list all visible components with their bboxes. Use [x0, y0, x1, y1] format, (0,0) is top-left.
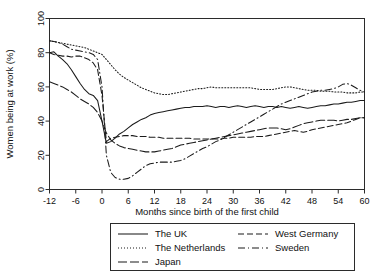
y-tick-label: 100	[36, 11, 46, 26]
x-tick-label: 24	[202, 196, 212, 206]
x-tick-label: 42	[281, 196, 291, 206]
legend-label-japan: Japan	[155, 256, 181, 267]
x-tick-label: 6	[126, 196, 131, 206]
legend-label-the-netherlands: The Netherlands	[155, 242, 225, 253]
figure-container: -12-606121824303642485460 020406080100 M…	[0, 0, 375, 277]
x-tick-label: 60	[359, 196, 369, 206]
x-tick-label: 54	[333, 196, 343, 206]
y-tick-label: 0	[36, 187, 46, 192]
x-tick-label: 36	[254, 196, 264, 206]
x-tick-label: -12	[43, 196, 56, 206]
x-axis-title: Months since birth of the first child	[135, 206, 279, 217]
legend-label-sweden: Sweden	[275, 242, 309, 253]
legend-label-the-uk: The UK	[155, 228, 188, 239]
x-tick-label: 18	[176, 196, 186, 206]
x-tick-label: -6	[72, 196, 80, 206]
x-tick-label: 30	[228, 196, 238, 206]
y-tick-label: 20	[36, 150, 46, 160]
line-chart: -12-606121824303642485460 020406080100 M…	[0, 0, 375, 277]
x-tick-label: 12	[149, 196, 159, 206]
y-tick-label: 40	[36, 116, 46, 126]
x-tick-label: 0	[99, 196, 104, 206]
y-axis-title: Women being at work (%)	[4, 49, 15, 158]
legend-label-west-germany: West Germany	[275, 228, 338, 239]
y-tick-label: 60	[36, 82, 46, 92]
y-tick-label: 80	[36, 48, 46, 58]
x-tick-label: 48	[307, 196, 317, 206]
